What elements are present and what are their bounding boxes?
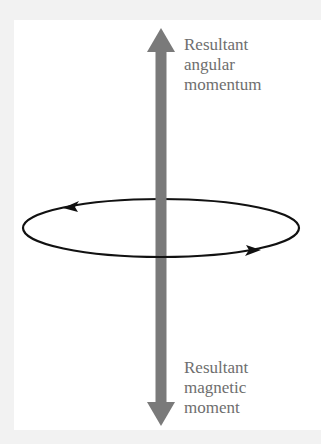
- magnetic-moment-label: Resultant magnetic moment: [184, 358, 248, 418]
- label-line: moment: [184, 398, 248, 418]
- axis-double-arrow: [147, 28, 175, 426]
- arrow-down-icon: [147, 402, 175, 426]
- angular-momentum-label: Resultant angular momentum: [184, 35, 261, 95]
- arrow-up-icon: [147, 28, 175, 52]
- diagram-canvas: [0, 0, 321, 444]
- label-line: Resultant: [184, 35, 261, 55]
- label-line: momentum: [184, 75, 261, 95]
- label-line: Resultant: [184, 358, 248, 378]
- label-line: angular: [184, 55, 261, 75]
- label-line: magnetic: [184, 378, 248, 398]
